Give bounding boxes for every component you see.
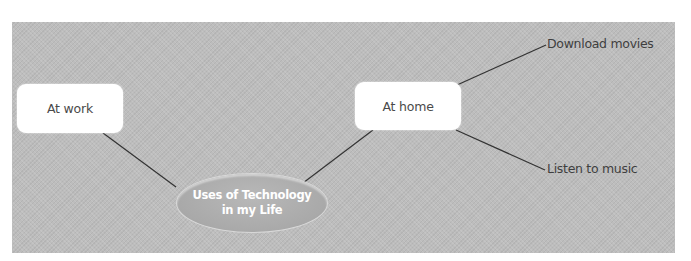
node-at-home: At home <box>355 82 461 130</box>
node-at-home-label: At home <box>382 99 433 114</box>
leaf-download-movies: Download movies <box>547 36 654 51</box>
central-node-line1: Uses of Technology <box>192 188 311 203</box>
leaf-listen-to-music: Listen to music <box>547 161 637 176</box>
node-at-work: At work <box>17 84 123 133</box>
diagram-background <box>12 22 675 253</box>
central-node-line2: in my Life <box>222 203 283 218</box>
node-at-work-label: At work <box>47 101 93 116</box>
central-node: Uses of Technology in my Life <box>176 173 328 233</box>
